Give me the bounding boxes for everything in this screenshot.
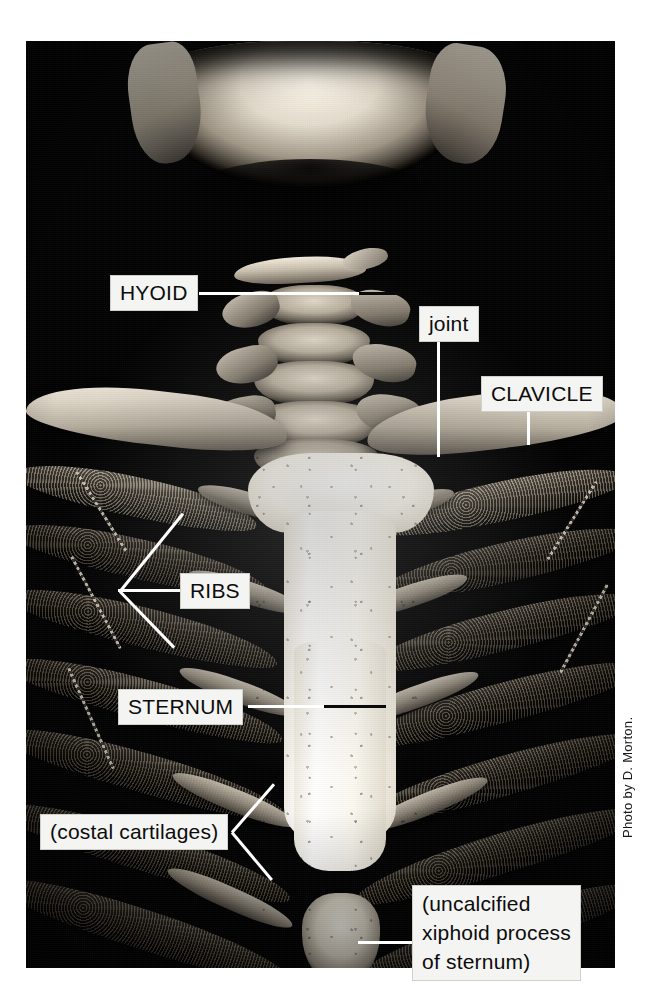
leader-hyoid-light <box>199 292 359 295</box>
label-xiphoid-line-2: xiphoid process <box>422 918 571 947</box>
label-sternum[interactable]: STERNUM <box>118 689 243 725</box>
xiphoid-process <box>302 893 380 968</box>
leader-xiphoid <box>358 941 412 944</box>
label-clavicle[interactable]: CLAVICLE <box>481 376 603 412</box>
sternum-lower-body <box>294 641 386 871</box>
label-costal-cartilages[interactable]: (costal cartilages) <box>40 814 228 850</box>
leader-clavicle-dark <box>527 445 530 473</box>
label-hyoid[interactable]: HYOID <box>110 275 198 311</box>
leader-sternum-light <box>248 705 324 708</box>
label-xiphoid-line-3: of sternum) <box>422 947 571 976</box>
label-xiphoid-process[interactable]: (uncalcified xiphoid process of sternum) <box>412 885 581 981</box>
figure-root: HYOID joint CLAVICLE RIBS STERNUM (costa… <box>0 0 658 1001</box>
photo-credit: Photo by D. Morton. <box>620 717 635 838</box>
leader-sternum-dark <box>324 705 386 708</box>
jaw-shadow <box>176 159 444 245</box>
clavicle-left-bone <box>26 376 290 459</box>
leader-clavicle-light <box>527 411 530 445</box>
label-xiphoid-line-1: (uncalcified <box>422 889 571 918</box>
leader-hyoid-dark <box>359 292 401 295</box>
label-joint[interactable]: joint <box>419 306 479 342</box>
leader-ribs-stem <box>118 589 180 592</box>
label-ribs[interactable]: RIBS <box>180 573 250 609</box>
leader-joint <box>437 339 440 457</box>
